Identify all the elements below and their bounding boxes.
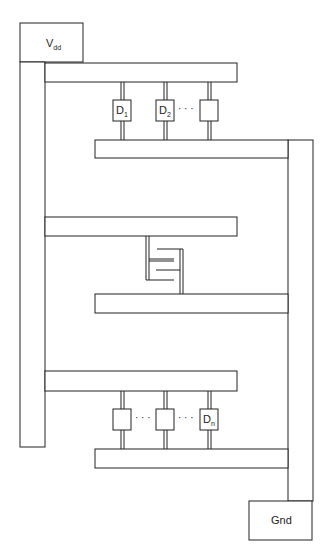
- gnd-rail: [288, 140, 313, 501]
- top-ellipsis: · · ·: [178, 103, 194, 114]
- decoupling-capacitor: [146, 236, 183, 294]
- device-dn-label: Dn: [203, 413, 215, 425]
- device-d2-label: D2: [159, 104, 171, 116]
- vdd-finger-1: [45, 63, 237, 82]
- vdd-label: Vdd: [46, 37, 61, 49]
- bottom-ellipsis-1: · · ·: [135, 412, 151, 423]
- vdd-rail: [20, 62, 45, 447]
- vdd-finger-3: [45, 371, 237, 391]
- bottom-ellipsis-2: · · ·: [178, 412, 194, 423]
- layout-drawing: [0, 0, 330, 558]
- gnd-finger-2: [95, 294, 288, 313]
- device-b2: [156, 409, 174, 430]
- device-b1: [113, 409, 131, 430]
- diagram-canvas: Vdd Gnd D1 D2 · · · · · · · · · Dn: [0, 0, 330, 558]
- gnd-finger-1: [95, 140, 288, 158]
- gnd-finger-3: [95, 449, 288, 468]
- device-d1-label: D1: [116, 104, 128, 116]
- vdd-finger-2: [45, 217, 237, 236]
- gnd-label: Gnd: [271, 514, 292, 526]
- device-d3: [200, 100, 218, 121]
